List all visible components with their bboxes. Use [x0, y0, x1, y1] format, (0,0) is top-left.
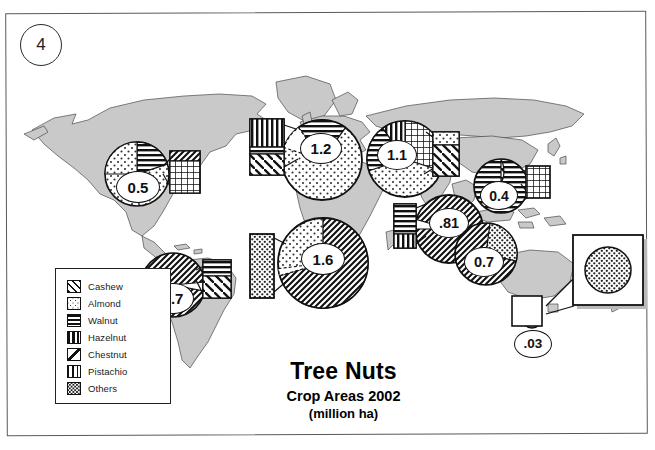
pie-value-southeast-asia: 0.7 — [464, 247, 504, 277]
pie-value-west-central-asia: 1.1 — [377, 140, 417, 170]
legend-label-others: Others — [88, 383, 117, 394]
callout-europe — [246, 115, 298, 181]
legend-swatch-pistachio-icon — [67, 365, 81, 378]
legend-item-hazelnut: Hazelnut — [67, 329, 170, 346]
callout-oceania-inset — [568, 232, 650, 324]
chart-title: Tree Nuts — [236, 358, 451, 385]
callout-africa — [246, 228, 288, 306]
callout-west-central-asia — [424, 126, 466, 184]
legend-item-others: Others — [67, 380, 170, 397]
legend-item-almond: Almond — [67, 295, 170, 312]
legend-label-pistachio: Pistachio — [88, 366, 127, 377]
figure-number: 4 — [36, 35, 45, 55]
pie-value-africa: 1.6 — [301, 243, 345, 275]
callout-south-america — [196, 256, 240, 306]
legend-label-hazelnut: Hazelnut — [88, 332, 126, 343]
pie-value-north-america: 0.5 — [116, 171, 160, 203]
pie-value-europe: 1.2 — [300, 133, 342, 164]
legend-swatch-almond-icon — [67, 297, 81, 310]
chart-subtitle: Crop Areas 2002 — [236, 388, 451, 404]
legend-item-pistachio: Pistachio — [67, 363, 170, 380]
figure-root: 4 — [0, 0, 655, 450]
legend-swatch-walnut-icon — [67, 314, 81, 327]
legend: Cashew Almond Walnut Hazelnut Chestnut P… — [55, 268, 171, 404]
chart-units: (million ha) — [236, 406, 451, 421]
legend-label-cashew: Cashew — [88, 281, 123, 292]
pie-value-oceania: .03 — [514, 330, 552, 358]
legend-swatch-cashew-icon — [67, 280, 81, 293]
oceania-magnifier-box — [506, 292, 546, 332]
legend-item-cashew: Cashew — [67, 278, 170, 295]
callout-east-asia — [521, 162, 553, 202]
legend-label-almond: Almond — [88, 298, 121, 309]
legend-item-walnut: Walnut — [67, 312, 170, 329]
legend-label-walnut: Walnut — [88, 315, 118, 326]
callout-north-america — [163, 148, 205, 196]
callout-south-asia — [392, 200, 426, 254]
legend-swatch-hazelnut-icon — [67, 331, 81, 344]
pie-value-east-asia: 0.4 — [480, 181, 518, 210]
legend-item-chestnut: Chestnut — [67, 346, 170, 363]
legend-swatch-chestnut-icon — [67, 348, 81, 361]
legend-label-chestnut: Chestnut — [88, 349, 127, 360]
legend-swatch-others-icon — [67, 382, 81, 395]
chart-title-block: Tree Nuts Crop Areas 2002 (million ha) — [236, 358, 451, 421]
